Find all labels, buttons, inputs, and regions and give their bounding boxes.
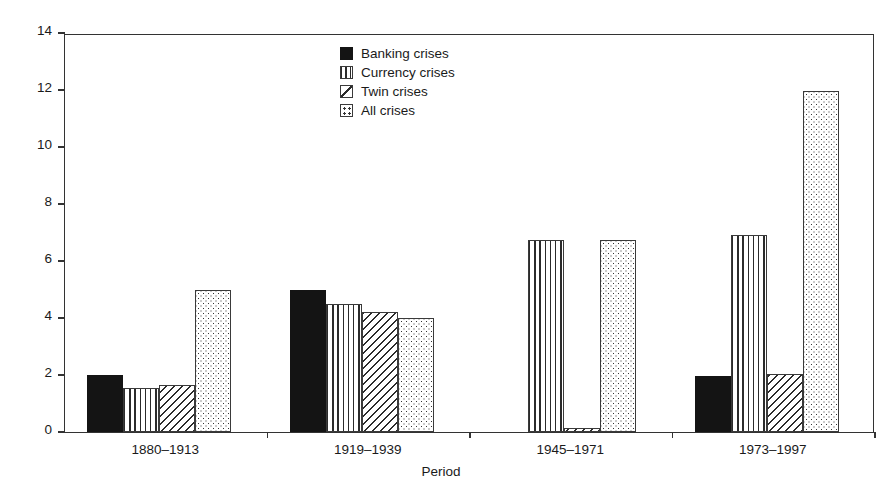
bar <box>695 376 731 432</box>
legend-label: Twin crises <box>361 84 428 99</box>
y-tick-mark <box>58 260 65 262</box>
y-tick-mark <box>58 89 65 91</box>
x-tick-mark <box>267 432 269 438</box>
y-tick-mark <box>58 32 65 34</box>
legend-swatch-icon <box>340 104 353 117</box>
y-tick-mark <box>58 317 65 319</box>
y-tick-mark <box>58 431 65 433</box>
legend-label: Banking crises <box>361 46 449 61</box>
y-tick-label: 6 <box>12 251 52 266</box>
bar <box>767 374 803 432</box>
y-tick-label: 8 <box>12 194 52 209</box>
bar <box>600 240 636 432</box>
legend-item: Banking crises <box>340 44 455 63</box>
bar <box>803 91 839 432</box>
legend: Banking crisesCurrency crisesTwin crises… <box>340 44 455 120</box>
x-tick-label: 1945–1971 <box>480 442 660 457</box>
y-tick-mark <box>58 146 65 148</box>
legend-item: All crises <box>340 101 455 120</box>
bar <box>290 290 326 433</box>
bar-chart: percentage probability per year 02468101… <box>0 0 882 497</box>
bar <box>528 240 564 432</box>
y-tick-label: 0 <box>12 422 52 437</box>
bar <box>398 318 434 432</box>
bar <box>123 388 159 432</box>
legend-swatch-icon <box>340 47 353 60</box>
x-tick-label: 1919–1939 <box>278 442 458 457</box>
legend-item: Currency crises <box>340 63 455 82</box>
bar <box>564 428 600 432</box>
legend-item: Twin crises <box>340 82 455 101</box>
y-tick-label: 14 <box>12 23 52 38</box>
x-axis-title: Period <box>0 464 882 479</box>
legend-label: Currency crises <box>361 65 455 80</box>
bar <box>195 290 231 433</box>
bar <box>326 304 362 432</box>
legend-swatch-icon <box>340 66 353 79</box>
x-tick-label: 1973–1997 <box>683 442 863 457</box>
y-tick-label: 12 <box>12 80 52 95</box>
bar <box>731 235 767 432</box>
bar <box>87 375 123 432</box>
x-tick-label: 1880–1913 <box>75 442 255 457</box>
x-tick-mark <box>874 432 876 438</box>
bar <box>159 385 195 432</box>
x-tick-mark <box>469 432 471 438</box>
y-tick-label: 2 <box>12 365 52 380</box>
legend-swatch-icon <box>340 85 353 98</box>
legend-label: All crises <box>361 103 415 118</box>
y-tick-label: 10 <box>12 137 52 152</box>
y-tick-label: 4 <box>12 308 52 323</box>
y-tick-mark <box>58 374 65 376</box>
x-tick-mark <box>672 432 674 438</box>
y-tick-mark <box>58 203 65 205</box>
plot-area: 02468101214 <box>64 34 874 433</box>
bar <box>362 312 398 432</box>
